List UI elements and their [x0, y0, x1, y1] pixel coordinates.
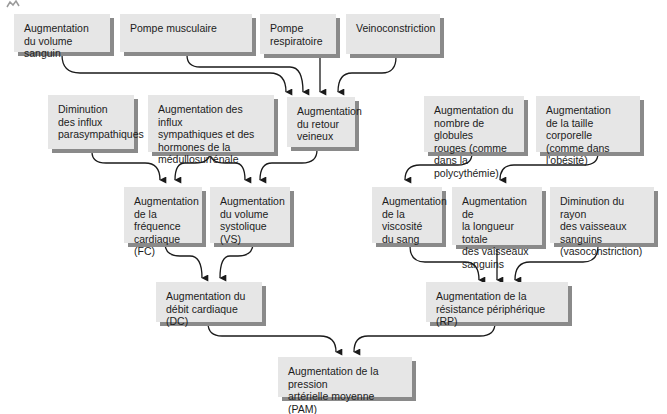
box-retour-veineux: Augmentation du retour veineux [287, 97, 355, 147]
box-longueur-vaisseaux: Augmentation de la longueur totale des v… [452, 187, 542, 245]
box-resistance-peripherique: Augmentation de la résistance périphériq… [426, 282, 568, 322]
box-influx-sympathiques: Augmentation des influx sympathiques et … [148, 95, 274, 152]
box-taille-corporelle: Augmentation de la taille corporelle (co… [536, 96, 640, 152]
box-frequence-cardiaque: Augmentation de la fréquence cardiaque (… [124, 187, 202, 243]
box-pression-arterielle: Augmentation de la pression artérielle m… [278, 357, 412, 397]
box-diminution-parasympathiques: Diminution des influx parasympathiques [48, 95, 134, 149]
box-globules-rouges: Augmentation du nombre de globules rouge… [424, 96, 524, 152]
box-pompe-musculaire: Pompe musculaire [120, 14, 252, 52]
box-rayon-vaisseaux: Diminution du rayon des vaisseaux sangui… [550, 187, 654, 243]
box-volume-sanguin: Augmentation du volume sanguin [14, 14, 110, 52]
box-debit-cardiaque: Augmentation du débit cardiaque (DC) [156, 282, 262, 322]
box-viscosite: Augmentation de la viscosité du sang [372, 187, 442, 243]
box-veinoconstriction: Veinoconstriction [346, 14, 440, 54]
box-volume-systolique: Augmentation du volume systolique (VS) [210, 187, 290, 243]
box-pompe-respiratoire: Pompe respiratoire [260, 14, 336, 54]
